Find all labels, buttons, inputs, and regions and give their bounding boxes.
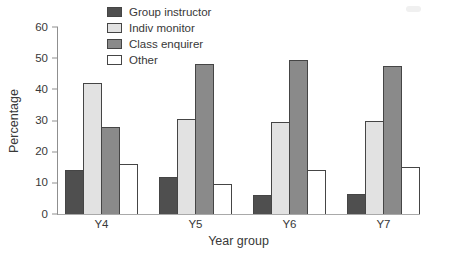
bar-y4-class-enquirer: [101, 127, 120, 214]
bar-y6-other: [307, 170, 326, 214]
bar-y4-group-instructor: [65, 170, 84, 214]
y-tick-label: 0: [42, 208, 48, 220]
y-tick-label: 20: [35, 146, 48, 158]
y-axis-title: Percentage: [7, 89, 21, 153]
legend-swatch: [107, 55, 122, 65]
legend-item: Other: [107, 53, 211, 66]
y-tick-label: 10: [35, 177, 48, 189]
legend-swatch: [107, 7, 122, 17]
legend-label: Group instructor: [129, 6, 211, 18]
bar-y7-other: [401, 167, 420, 214]
legend-item: Class enquirer: [107, 37, 211, 50]
bar-y5-other: [213, 184, 232, 214]
y-tick-label: 60: [35, 21, 48, 33]
x-category-label: Y5: [159, 218, 232, 230]
x-axis-title: Year group: [57, 234, 420, 248]
bar-y5-group-instructor: [159, 177, 178, 214]
y-tick-label: 30: [35, 115, 48, 127]
legend: Group instructorIndiv monitorClass enqui…: [107, 5, 211, 66]
bar-group-y7: Y7: [347, 27, 420, 214]
x-category-label: Y6: [253, 218, 326, 230]
bar-chart-figure: Percentage 0102030405060 Y4Y5Y6Y7 Group …: [0, 0, 449, 257]
legend-label: Class enquirer: [129, 38, 203, 50]
legend-item: Indiv monitor: [107, 21, 211, 34]
x-category-label: Y4: [65, 218, 138, 230]
y-tick-label: 40: [35, 84, 48, 96]
x-category-label: Y7: [347, 218, 420, 230]
legend-item: Group instructor: [107, 5, 211, 18]
scan-artifact: [406, 6, 421, 12]
bar-y6-class-enquirer: [289, 60, 308, 214]
bar-y6-group-instructor: [253, 195, 272, 214]
bar-y4-indiv-monitor: [83, 83, 102, 214]
bar-y7-group-instructor: [347, 194, 366, 214]
legend-label: Indiv monitor: [129, 22, 195, 34]
bar-group-y6: Y6: [253, 27, 326, 214]
legend-swatch: [107, 39, 122, 49]
bar-y7-class-enquirer: [383, 66, 402, 214]
bar-y6-indiv-monitor: [271, 122, 290, 214]
bar-y7-indiv-monitor: [365, 121, 384, 215]
legend-label: Other: [129, 54, 158, 66]
legend-swatch: [107, 23, 122, 33]
y-tick-label: 50: [35, 52, 48, 64]
bar-y5-class-enquirer: [195, 64, 214, 214]
bar-y5-indiv-monitor: [177, 119, 196, 214]
bar-y4-other: [119, 164, 138, 214]
